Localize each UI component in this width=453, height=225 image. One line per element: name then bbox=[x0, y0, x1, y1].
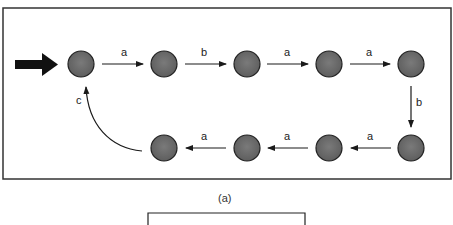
edge-n5-n6: a bbox=[351, 130, 391, 148]
state-node bbox=[316, 51, 342, 77]
edge-n3-n4: a bbox=[350, 46, 390, 64]
edge-label: a bbox=[367, 130, 374, 142]
edge-label: a bbox=[284, 130, 291, 142]
edge-n6-n7: a bbox=[268, 130, 308, 148]
state-node bbox=[151, 135, 177, 161]
state-node bbox=[234, 135, 260, 161]
lower-figure-frame bbox=[148, 213, 305, 225]
edge-label: c bbox=[76, 94, 82, 106]
edge-n8-n0: c bbox=[76, 87, 142, 151]
edge-n0-n1: a bbox=[102, 46, 143, 64]
edge-label: b bbox=[201, 46, 207, 58]
edge-label: a bbox=[366, 46, 373, 58]
state-diagram: a b a a b a a a c bbox=[0, 0, 453, 225]
state-node bbox=[68, 51, 94, 77]
state-node bbox=[316, 135, 342, 161]
state-node bbox=[234, 51, 260, 77]
state-node bbox=[151, 51, 177, 77]
edge-n1-n2: b bbox=[185, 46, 226, 64]
edge-n4-n5: b bbox=[411, 86, 422, 127]
figure-caption: (a) bbox=[218, 192, 231, 204]
start-arrow-icon bbox=[15, 53, 58, 76]
edge-label: a bbox=[201, 130, 208, 142]
edge-n2-n3: a bbox=[267, 46, 308, 64]
edge-n7-n8: a bbox=[186, 130, 226, 148]
state-node bbox=[398, 135, 424, 161]
edge-label: a bbox=[121, 46, 128, 58]
state-node bbox=[398, 51, 424, 77]
diagram-frame bbox=[3, 8, 451, 179]
edge-label: a bbox=[284, 46, 291, 58]
edge-label: b bbox=[416, 96, 422, 108]
